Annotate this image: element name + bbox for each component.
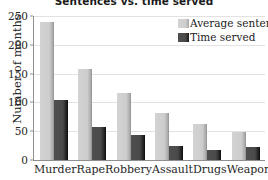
legend-swatch-icon (178, 33, 189, 42)
bar (169, 146, 183, 160)
y-axis-tick-label: 200 (8, 39, 28, 51)
x-axis-tick-label: Robbery (105, 163, 152, 176)
bar (78, 69, 92, 160)
x-axis-tick-label: Assault (152, 163, 193, 176)
legend-swatch-icon (178, 19, 189, 28)
bar (40, 22, 54, 160)
legend-item: Average sentence (178, 17, 268, 29)
chart-title: Sentences vs. time served (0, 0, 268, 7)
bar-chart: Sentences vs. time served Number of mont… (0, 0, 268, 180)
bar (246, 147, 260, 160)
x-axis-tick-label: Murder (34, 163, 76, 176)
bar (131, 135, 145, 160)
x-axis-tick-label: Rape (76, 163, 105, 176)
bar-group (117, 16, 145, 160)
bar (155, 113, 169, 160)
bar (207, 150, 221, 160)
bar-group (78, 16, 106, 160)
legend-label: Average sentence (190, 17, 268, 29)
x-axis-labels: MurderRapeRobberyAssaultDrugsWeapons (34, 163, 265, 176)
bar (92, 127, 106, 160)
x-axis-tick-label: Weapons (227, 163, 268, 176)
bar-group (40, 16, 68, 160)
bar (232, 132, 246, 160)
chart-legend: Average sentenceTime served (178, 17, 268, 43)
y-axis-tick-label: 0 (21, 154, 28, 166)
y-axis-tick-label: 100 (8, 96, 28, 108)
legend-item: Time served (178, 31, 268, 43)
y-axis-ticks: 050100150200250 (0, 16, 33, 160)
bar (193, 124, 207, 160)
x-axis-tick-label: Drugs (193, 163, 227, 176)
y-axis-tick-label: 150 (8, 68, 28, 80)
y-axis-tick-label: 50 (15, 125, 28, 137)
y-axis-tick-label: 250 (8, 10, 28, 22)
bar (117, 93, 131, 160)
legend-label: Time served (190, 31, 255, 43)
bar (54, 100, 68, 160)
